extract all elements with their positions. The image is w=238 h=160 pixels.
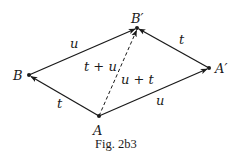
label-diagonal-left: t + u (84, 59, 117, 74)
label-edge-A-B: t (57, 96, 63, 111)
label-point-Aprime: A′ (214, 61, 227, 76)
figure-caption: Fig. 2b3 (95, 137, 137, 151)
point-A (97, 114, 101, 118)
edge-Aprime-to-Bprime (139, 29, 209, 68)
parallelogram-diagram: B′ B A′ A u t t u t + u u + t Fig. 2b3 (0, 0, 238, 160)
label-diagonal-right: u + t (121, 72, 155, 87)
label-edge-A-Aprime: u (156, 93, 164, 108)
label-edge-B-Bprime: u (70, 36, 78, 51)
label-edge-Aprime-Bprime: t (179, 32, 185, 47)
point-Bprime (135, 26, 139, 30)
label-point-Bprime: B′ (130, 11, 144, 26)
label-point-B: B (12, 68, 23, 83)
point-B (27, 73, 31, 77)
point-Aprime (207, 66, 211, 70)
label-point-A: A (92, 123, 102, 138)
edge-A-to-B (31, 77, 99, 117)
edge-B-to-Bprime (29, 29, 135, 75)
